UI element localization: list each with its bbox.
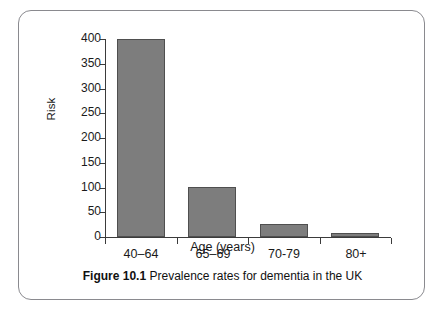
- bar: [188, 187, 236, 237]
- figure-caption: Figure 10.1 Prevalence rates for dementi…: [19, 269, 426, 283]
- y-axis-tick-label: 250: [67, 105, 101, 119]
- figure-caption-label: Figure 10.1: [83, 269, 146, 283]
- plot-area: 050100150200250300350400 40–6465–6970-79…: [105, 39, 391, 238]
- y-axis-line: [105, 39, 106, 238]
- y-axis-tick-label: 400: [67, 31, 101, 45]
- y-axis-title: Risk: [45, 69, 57, 149]
- y-axis-tick-label: 200: [67, 130, 101, 144]
- y-axis-tick-label: 150: [67, 155, 101, 169]
- figure-caption-text: Prevalence rates for dementia in the UK: [149, 269, 362, 283]
- y-axis-tick-label: 300: [67, 81, 101, 95]
- bar: [331, 233, 379, 237]
- y-axis-tick-label: 50: [67, 204, 101, 218]
- figure-frame: Risk 050100150200250300350400 40–6465–69…: [18, 10, 425, 300]
- y-axis-tick-label: 350: [67, 56, 101, 70]
- bar: [117, 39, 165, 237]
- y-axis-tick-label: 100: [67, 180, 101, 194]
- x-axis-title: Age (years): [19, 240, 426, 254]
- bar: [260, 224, 308, 237]
- bar-chart: Risk 050100150200250300350400 40–6465–69…: [19, 11, 426, 263]
